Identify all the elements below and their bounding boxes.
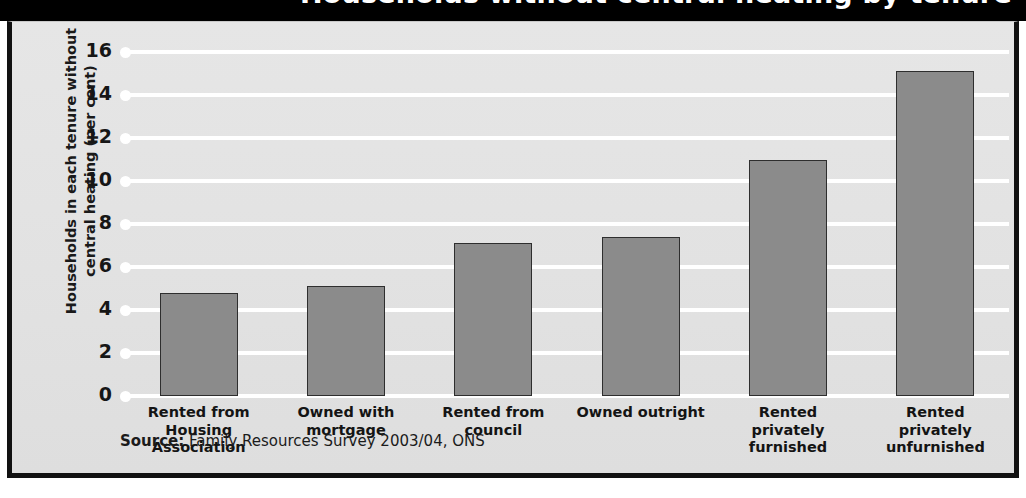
x-category-label: Rented privately unfurnished [862, 404, 1009, 457]
gridline [125, 351, 1009, 355]
axis-tick-dot [120, 348, 131, 359]
bar [160, 293, 238, 396]
chart-panel: Households in each tenure without centra… [7, 21, 1019, 478]
gridline [125, 179, 1009, 183]
bar [896, 71, 974, 396]
x-category-label: Owned outright [567, 404, 714, 422]
axis-tick-dot [120, 47, 131, 58]
axis-tick-dot [120, 133, 131, 144]
bar [749, 160, 827, 397]
y-tick-label: 4 [70, 297, 112, 319]
gridline [125, 265, 1009, 269]
y-tick-label: 16 [70, 39, 112, 61]
y-tick-label: 12 [70, 125, 112, 147]
y-tick-label: 2 [70, 340, 112, 362]
bar [454, 243, 532, 396]
gridline [125, 394, 1009, 398]
gridline [125, 50, 1009, 54]
axis-tick-dot [120, 219, 131, 230]
chart-title: Households without central heating by te… [300, 0, 1012, 9]
bar [602, 237, 680, 396]
axis-tick-dot [120, 391, 131, 402]
bar [307, 286, 385, 396]
gridline [125, 308, 1009, 312]
axis-tick-dot [120, 305, 131, 316]
y-tick-label: 0 [70, 383, 112, 405]
y-tick-label: 14 [70, 82, 112, 104]
y-tick-label: 10 [70, 168, 112, 190]
x-category-label: Rented privately furnished [714, 404, 861, 457]
y-tick-label: 6 [70, 254, 112, 276]
title-band: Households without central heating by te… [0, 0, 1026, 21]
chart-figure: Households without central heating by te… [0, 0, 1026, 498]
source-note: Source: Family Resources Survey 2003/04,… [120, 432, 485, 450]
gridline [125, 93, 1009, 97]
source-text: Family Resources Survey 2003/04, ONS [184, 432, 485, 450]
gridline [125, 136, 1009, 140]
axis-tick-dot [120, 90, 131, 101]
gridline [125, 222, 1009, 226]
axis-tick-dot [120, 176, 131, 187]
y-tick-label: 8 [70, 211, 112, 233]
axis-tick-dot [120, 262, 131, 273]
source-prefix: Source: [120, 432, 184, 450]
